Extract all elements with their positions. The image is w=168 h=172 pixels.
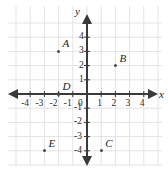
point-marker-d [57, 92, 60, 95]
y-axis-up-arrow [82, 14, 92, 24]
y-tick-neg4: -4 [74, 146, 82, 156]
point-label-c: C [105, 138, 112, 149]
x-tick-1: 1 [97, 99, 102, 109]
x-tick-neg2: -2 [50, 99, 58, 109]
origin-tick-label: 0 [78, 99, 83, 109]
x-tick-neg4: -4 [21, 99, 29, 109]
y-axis-down-arrow [82, 156, 92, 166]
point-label-e: E [48, 138, 55, 149]
x-tick-3: 3 [126, 99, 131, 109]
x-tick-2: 2 [111, 99, 116, 109]
x-axis-right-arrow [148, 89, 158, 99]
point-label-a: A [63, 38, 70, 49]
y-tick-neg3: -3 [74, 132, 82, 142]
point-label-b: B [119, 53, 126, 64]
y-tick-2: 2 [79, 61, 84, 71]
x-axis-left-arrow [8, 89, 18, 99]
x-tick-neg3: -3 [35, 99, 43, 109]
y-tick-4: 4 [79, 32, 84, 42]
y-tick-1: 1 [79, 75, 84, 85]
coordinate-plane: x y -4-3-2-112344321-1-2-3-40 ABCDE [0, 0, 168, 172]
x-tick-4: 4 [140, 99, 145, 109]
point-label-d: D [63, 81, 71, 92]
x-axis-label: x [159, 89, 164, 100]
y-tick-3: 3 [79, 46, 84, 56]
axes [0, 0, 168, 172]
y-axis-label: y [75, 6, 80, 17]
y-tick-neg2: -2 [74, 117, 82, 127]
x-tick-neg1: -1 [64, 99, 72, 109]
